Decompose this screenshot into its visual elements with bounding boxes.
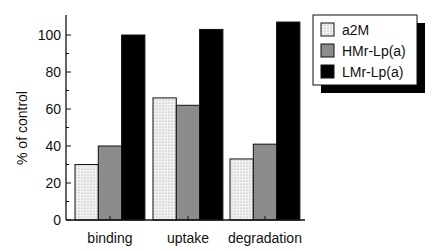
bar-chart: bindinguptakedegradation020406080100 % o… <box>0 0 436 251</box>
y-tick-label: 100 <box>38 27 62 43</box>
legend-label: a2M <box>342 22 369 38</box>
legend-label: HMr-Lp(a) <box>342 43 406 59</box>
y-tick-label: 0 <box>53 212 61 228</box>
bar-degradation-a2m <box>230 159 253 220</box>
bar-degradation-hmrlpa <box>253 144 276 220</box>
y-tick-label: 60 <box>45 101 61 117</box>
y-axis-title: % of control <box>14 91 30 165</box>
bar-binding-lmrlpa <box>122 35 145 220</box>
x-tick-label: degradation <box>228 230 302 246</box>
y-tick-label: 40 <box>45 138 61 154</box>
legend-label: LMr-Lp(a) <box>342 64 403 80</box>
y-tick-label: 20 <box>45 175 61 191</box>
x-tick-label: binding <box>87 230 132 246</box>
legend-swatch <box>321 65 334 78</box>
legend-swatch <box>321 44 334 57</box>
y-tick-label: 80 <box>45 64 61 80</box>
bar-degradation-lmrlpa <box>277 22 300 220</box>
bar-uptake-lmrlpa <box>200 29 223 220</box>
bar-binding-hmrlpa <box>98 146 121 220</box>
legend-swatch <box>321 23 334 36</box>
legend: a2MHMr-Lp(a)LMr-Lp(a) <box>313 15 425 93</box>
bar-binding-a2m <box>75 165 98 221</box>
bar-uptake-a2m <box>153 98 176 220</box>
x-tick-label: uptake <box>167 230 209 246</box>
bar-uptake-hmrlpa <box>176 105 199 220</box>
bars-group <box>75 22 300 220</box>
